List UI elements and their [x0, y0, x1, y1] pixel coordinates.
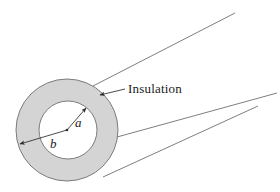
insulation-leader	[100, 89, 125, 95]
outer-radius-label: b	[50, 137, 57, 150]
pipe-top-edge-line	[93, 13, 235, 86]
inner-radius-label: a	[75, 116, 82, 129]
pipe-body-lines	[93, 13, 277, 177]
pipe-bottom-edge-line	[103, 106, 258, 177]
insulation-label: Insulation	[128, 82, 182, 95]
figure-container: Insulation a b	[0, 0, 280, 192]
pipe-cross-section-diagram	[0, 0, 280, 192]
pipe-middle-edge-line	[117, 93, 277, 137]
center-point-dot	[66, 129, 69, 132]
insulation-leader-line	[100, 89, 125, 95]
